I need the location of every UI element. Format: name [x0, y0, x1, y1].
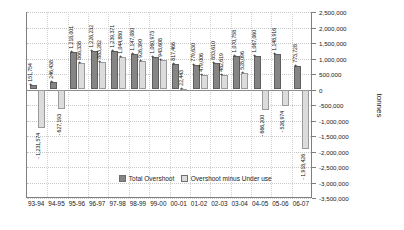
bar-item[interactable]: + 817,466: [172, 12, 179, 197]
y-axis-tick-label: -500,000: [319, 102, 343, 109]
bar-item[interactable]: - 666,200: [262, 12, 269, 197]
x-axis-tick-label: 04-05: [252, 200, 268, 207]
y-axis-title-label: tonnes: [375, 93, 384, 117]
y-axis-tick: [312, 136, 316, 137]
bar[interactable]: [221, 75, 228, 90]
bar-group: + 1,070,758+ 528,096: [231, 12, 251, 197]
bar[interactable]: [274, 54, 281, 90]
y-axis-tick-label: -3,500,000: [319, 195, 349, 202]
bar-data-label: + 246,438: [48, 60, 54, 83]
bar-item[interactable]: + 883,282: [99, 12, 106, 197]
bar-data-label: + 779,630: [190, 44, 196, 67]
bar-item[interactable]: - 526,974: [282, 12, 289, 197]
bar-item[interactable]: + 1,044,880: [119, 12, 126, 197]
x-axis-tick-label: 02-03: [211, 200, 227, 207]
y-axis-tick: [312, 59, 316, 60]
y-axis-tick: [312, 43, 316, 44]
x-axis-tick-label: 97-98: [109, 200, 125, 207]
bar-item[interactable]: + 479,006: [201, 12, 208, 197]
legend-label: Total Overshoot: [129, 175, 175, 182]
y-axis-tick-label: -2,000,000: [319, 148, 349, 155]
bar-data-label: + 1,067,060: [251, 30, 257, 57]
bar-data-label: + 926,390: [137, 39, 143, 62]
x-axis-tick-label: 00-01: [170, 200, 186, 207]
bar-item[interactable]: + 943,608: [160, 12, 167, 197]
bar[interactable]: [262, 90, 269, 111]
bar[interactable]: [282, 90, 289, 106]
bar-item[interactable]: + 246,438: [50, 12, 57, 197]
bar[interactable]: [119, 57, 126, 89]
bar[interactable]: [50, 82, 57, 90]
bar-item[interactable]: + 853,610: [213, 12, 220, 197]
bar-item[interactable]: + 528,096: [241, 12, 248, 197]
y-axis-tick: [312, 152, 316, 153]
legend-item-total-overshoot: Total Overshoot: [119, 175, 174, 182]
y-axis-tick-label: 1,500,000: [319, 40, 347, 47]
y-axis-tick: [312, 167, 316, 168]
bar[interactable]: [139, 61, 146, 90]
y-axis-tick-label: 2,500,000: [319, 9, 347, 16]
y-axis-tick-label: 2,000,000: [319, 24, 347, 31]
bar-item[interactable]: + 482,619: [221, 12, 228, 197]
bar-data-label: + 1,148,916: [271, 28, 277, 55]
y-axis-tick-label: 1,000,000: [319, 55, 347, 62]
bar-chart: + 151,754- 1,231,574+ 246,438- 627,193+ …: [0, 0, 404, 230]
bar-item[interactable]: + 1,148,916: [274, 12, 281, 197]
bar[interactable]: [58, 90, 65, 109]
bar-data-label: + 853,610: [210, 41, 216, 64]
bar[interactable]: [99, 62, 106, 89]
bar-group: + 151,754- 1,231,574: [27, 12, 47, 197]
bar-data-label: + 1,218,001: [68, 26, 74, 53]
bar-item[interactable]: + 866,338: [78, 12, 85, 197]
bar[interactable]: [78, 63, 85, 90]
bar[interactable]: [152, 57, 159, 90]
bar-data-label: + 866,338: [76, 41, 82, 64]
bar-group: + 1,067,060- 666,200: [251, 12, 271, 197]
x-axis-tick-label: 98-99: [130, 200, 146, 207]
bar-group: + 779,630+ 479,006: [190, 12, 210, 197]
legend-swatch-icon: [119, 175, 126, 182]
bar-item[interactable]: + 1,067,060: [254, 12, 261, 197]
y-axis-tick: [312, 198, 316, 199]
y-axis-tick-label: -3,000,000: [319, 179, 349, 186]
bar[interactable]: [302, 90, 309, 149]
y-axis-tick-label: -1,000,000: [319, 117, 349, 124]
y-axis-tick-label: 500,000: [319, 71, 341, 78]
bar-data-label: + 528,096: [239, 51, 245, 74]
y-axis-tick: [312, 105, 316, 106]
bar-group: + 1,147,080+ 926,390: [129, 12, 149, 197]
bar-item[interactable]: + 779,630: [193, 12, 200, 197]
bar[interactable]: [294, 66, 301, 90]
bar-item[interactable]: - 627,193: [58, 12, 65, 197]
bar-group: + 853,610+ 482,619: [210, 12, 230, 197]
bar[interactable]: [201, 75, 208, 90]
x-axis-tick-label: 96-97: [89, 200, 105, 207]
y-axis-tick: [312, 28, 316, 29]
chart-legend: Total Overshoot Overshoot minus Under us…: [53, 175, 338, 182]
bar-item[interactable]: + 151,754: [30, 12, 37, 197]
bar-data-label: + 1,060,973: [149, 31, 155, 58]
bar-data-label: + 1,239,371: [109, 25, 115, 52]
bar-item[interactable]: + 1,070,758: [233, 12, 240, 197]
bar-item[interactable]: + 1,218,001: [70, 12, 77, 197]
bar-data-label: + 773,728: [292, 44, 298, 67]
bar-item[interactable]: + 926,390: [139, 12, 146, 197]
bar-group: + 817,466+ 22,443: [170, 12, 190, 197]
x-axis-tick-label: 05-06: [272, 200, 288, 207]
bar[interactable]: [160, 60, 167, 89]
x-axis-tick-label: 95-96: [69, 200, 85, 207]
bar-data-label: + 1,044,880: [117, 31, 123, 58]
x-axis: 93-9494-9595-9696-9797-9898-9999-0000-01…: [26, 200, 311, 214]
bar[interactable]: [38, 90, 45, 128]
bar-item[interactable]: + 22,443: [180, 12, 187, 197]
bar-data-label: + 817,466: [170, 42, 176, 65]
bar-data-label: + 479,006: [198, 53, 204, 76]
y-axis-title: tonnes: [367, 12, 391, 198]
bar[interactable]: [241, 73, 248, 89]
bar-group: + 1,239,371+ 1,044,880: [108, 12, 128, 197]
bar-item[interactable]: - 1,231,574: [38, 12, 45, 197]
x-axis-tick-label: 06-07: [293, 200, 309, 207]
bar-item[interactable]: - 1,918,426: [302, 12, 309, 197]
y-axis-tick-label: -1,500,000: [319, 133, 349, 140]
bar[interactable]: [254, 56, 261, 89]
